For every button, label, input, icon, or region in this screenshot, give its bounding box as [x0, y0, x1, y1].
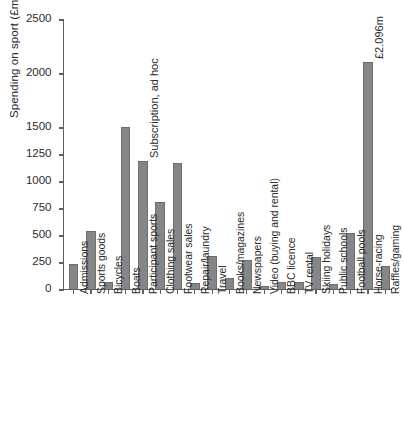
x-axis-label: Clothing sales — [164, 144, 178, 294]
x-axis-label: Footwear sales — [182, 144, 196, 294]
x-axis-label: BBC licence — [285, 144, 299, 294]
x-axis-label: Boats — [130, 144, 144, 294]
y-tick-label: 1500 — [26, 120, 52, 132]
x-axis-label: Horse-racing — [372, 144, 386, 294]
y-tick-label: 2500 — [26, 12, 52, 24]
x-axis-label: Sports goods — [95, 144, 109, 294]
y-tick-label: 250 — [32, 255, 51, 267]
bar-annotation: £2.096m — [373, 0, 387, 59]
y-tick: 250 — [59, 262, 64, 263]
x-axis-label: Video (buying and rental) — [268, 144, 282, 294]
y-tick: 1500 — [59, 127, 64, 128]
bar-annotation: Subscription, ad hoc — [148, 18, 162, 158]
y-tick: 2000 — [59, 73, 64, 74]
x-axis-label: Skiing holidays — [320, 144, 334, 294]
x-axis-label: Participant sports — [147, 144, 161, 294]
x-axis-label: Admissions — [78, 144, 92, 294]
y-tick-label: 1250 — [26, 147, 52, 159]
x-axis-label: Public schools — [337, 144, 351, 294]
x-axis-label: TV rental — [303, 144, 317, 294]
y-tick: 1250 — [59, 154, 64, 155]
y-tick-label: 750 — [32, 201, 51, 213]
x-axis-label: Books/magazines — [234, 144, 248, 294]
y-tick: 1000 — [59, 181, 64, 182]
x-axis-label: Raffles/gaming — [389, 144, 403, 294]
bar — [69, 264, 79, 289]
x-axis-label: Travel — [216, 144, 230, 294]
x-axis-label: Bicycles — [112, 144, 126, 294]
y-tick: 750 — [59, 208, 64, 209]
x-axis-labels: AdmissionsSports goodsBicyclesBoatsParti… — [63, 294, 392, 439]
y-tick-label: 500 — [32, 228, 51, 240]
x-axis-label: Repair/laundry — [199, 144, 213, 294]
y-axis-title: Spending on sport (£m) — [8, 0, 26, 118]
x-axis-label: Football pools — [355, 144, 369, 294]
y-tick-label: 1000 — [26, 174, 52, 186]
x-axis-label: Newspapers — [251, 144, 265, 294]
y-tick: 0 — [59, 289, 64, 290]
y-tick: 2500 — [59, 19, 64, 20]
y-tick-label: 0 — [45, 282, 51, 294]
y-tick: 500 — [59, 235, 64, 236]
y-tick-label: 2000 — [26, 66, 52, 78]
